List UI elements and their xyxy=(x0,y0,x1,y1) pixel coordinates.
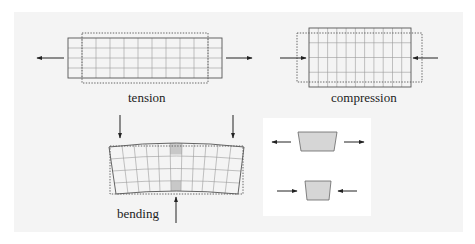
highlighted-cell-top xyxy=(170,143,182,154)
tension-label: tension xyxy=(128,91,166,104)
figure-background xyxy=(14,12,463,232)
compression-label: compression xyxy=(331,91,397,104)
bending-label: bending xyxy=(117,207,159,220)
deformation-diagram xyxy=(0,0,475,244)
highlighted-cell-bottom xyxy=(171,181,181,192)
stretched-element xyxy=(298,132,337,151)
compressed-element xyxy=(305,181,331,200)
element-detail-inset xyxy=(263,118,371,216)
